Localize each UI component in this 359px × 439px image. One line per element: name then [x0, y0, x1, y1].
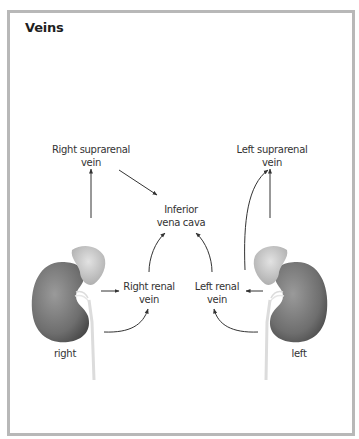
- arrow-icon: [149, 233, 165, 272]
- arrow-icon: [214, 309, 258, 332]
- left-kidney-icon: [254, 246, 328, 380]
- arrows: [91, 169, 270, 332]
- arrow-icon: [196, 233, 212, 272]
- arrow-icon: [119, 170, 157, 195]
- arrow-icon: [104, 309, 148, 332]
- diagram-graphics: [0, 0, 359, 439]
- right-kidney-icon: [32, 246, 106, 380]
